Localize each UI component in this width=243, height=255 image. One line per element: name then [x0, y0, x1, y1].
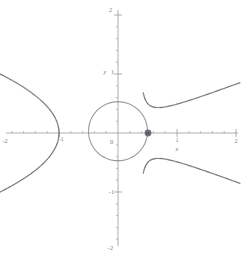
- focus-point-marker-core: [147, 132, 150, 135]
- x-tick-label-1: 1: [175, 136, 178, 143]
- x-axis-label: x: [175, 145, 179, 152]
- conic-plot-figure: -2 -1 1 2 2 1 -1 -2 0 x y: [0, 0, 243, 255]
- y-axis-label: y: [103, 68, 107, 75]
- x-tick-label-neg1: -1: [58, 135, 63, 142]
- axis-text-layer: -2 -1 1 2 2 1 -1 -2 0 x y: [2, 6, 237, 251]
- lower-right-branch-dot: [239, 183, 240, 184]
- y-tick-label-2: 2: [109, 6, 112, 13]
- plot-canvas: -2 -1 1 2 2 1 -1 -2 0 x y: [0, 0, 243, 255]
- y-tick-label-neg1: -1: [109, 188, 114, 195]
- upper-right-branch-dot: [239, 82, 240, 83]
- x-tick-label-2: 2: [234, 137, 237, 144]
- x-tick-label-neg2: -2: [2, 137, 7, 144]
- axes-group: [6, 10, 238, 246]
- y-tick-label-neg2: -2: [108, 244, 113, 251]
- origin-label: 0: [110, 138, 113, 145]
- y-tick-label-1: 1: [111, 68, 114, 75]
